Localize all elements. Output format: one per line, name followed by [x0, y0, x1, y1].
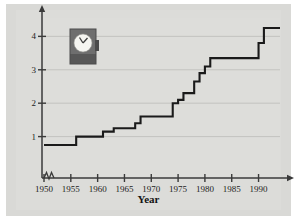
x-axis-title: Year [0, 193, 297, 205]
y-tick-label: 2 [24, 98, 36, 108]
y-tick-label: 4 [24, 31, 36, 41]
x-axis-arrow [287, 175, 294, 181]
y-tick-label: 3 [24, 65, 36, 75]
punch-clock-icon [69, 28, 101, 65]
y-tick-label: 1 [24, 132, 36, 142]
chart-figure: 195019551960196519701975198019851990 123… [0, 0, 297, 220]
y-axis-arrow [39, 5, 45, 12]
